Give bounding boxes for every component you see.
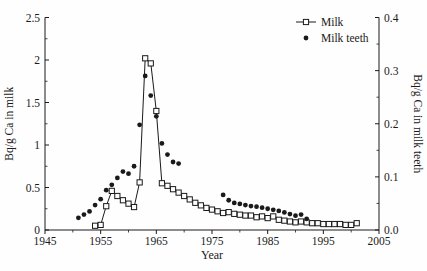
x-axis-label: Year (201, 248, 223, 262)
chart-svg: 1945195519651975198519952005Year00.511.5… (0, 0, 427, 271)
y-axis-right: 0.00.10.20.30.4Bq/g Ca in milk teeth (375, 12, 424, 237)
milk-point-marker (187, 197, 192, 202)
milk-point-marker (137, 180, 142, 185)
milk-point-marker (176, 190, 181, 195)
legend-item-milk-teeth: Milk teeth (304, 32, 369, 44)
milk-point-marker (287, 219, 292, 224)
milk-point-marker (126, 201, 131, 206)
milk-teeth-point-marker (237, 202, 242, 207)
milk-teeth-point-marker (109, 182, 114, 187)
milk-point-marker (343, 222, 348, 227)
milk-point-marker (104, 204, 109, 209)
y-left-tick-label: 1.5 (26, 97, 41, 109)
milk-point-marker (276, 217, 281, 222)
milk-point-marker (243, 213, 248, 218)
legend-label: Milk teeth (321, 32, 369, 44)
x-tick-label: 1945 (34, 235, 57, 247)
milk-teeth-point-marker (76, 215, 81, 220)
x-tick-label: 1965 (145, 235, 168, 247)
milk-point-marker (131, 204, 136, 209)
series-milk (93, 56, 360, 229)
milk-teeth-point-marker (254, 204, 259, 209)
y-right-tick-label: 0.0 (384, 224, 399, 236)
milk-point-marker (354, 221, 359, 226)
milk-point-marker (326, 221, 331, 226)
milk-point-marker (209, 207, 214, 212)
milk-teeth-point-marker (148, 93, 153, 98)
milk-point-marker (315, 221, 320, 226)
x-axis: 1945195519651975198519952005Year (34, 230, 391, 262)
y-axis-label-right: Bq/g Ca in milk teeth (411, 74, 424, 173)
x-tick-label: 1975 (201, 235, 224, 247)
milk-point-marker (298, 219, 303, 224)
milk-point-marker (170, 187, 175, 192)
milk-teeth-point-marker (226, 198, 231, 203)
milk-point-marker (337, 221, 342, 226)
x-tick-label: 1995 (312, 235, 335, 247)
y-left-tick-label: 1 (34, 139, 40, 151)
milk-point-marker (120, 198, 125, 203)
milk-teeth-point-marker (115, 176, 120, 181)
milk-teeth-point-marker (282, 210, 287, 215)
milk-teeth-point-marker (104, 188, 109, 193)
milk-point-marker (271, 214, 276, 219)
milk-point-marker (93, 223, 98, 228)
milk-teeth-point-marker (304, 216, 309, 221)
milk-teeth-point-marker (243, 203, 248, 208)
milk-teeth-point-marker (137, 122, 142, 127)
legend-open-square-icon (303, 19, 308, 24)
legend: MilkMilk teeth (296, 16, 369, 44)
x-tick-label: 1955 (89, 235, 112, 247)
y-axis-left: 00.511.522.5Bq/g Ca in milk (3, 12, 49, 237)
milk-teeth-point-marker (171, 160, 176, 165)
milk-teeth-point-marker (293, 213, 298, 218)
milk-point-marker (198, 203, 203, 208)
milk-teeth-point-marker (249, 204, 254, 209)
y-axis-label-left: Bq/g Ca in milk (3, 87, 16, 161)
milk-point-marker (98, 222, 103, 227)
milk-teeth-point-marker (288, 212, 293, 217)
milk-point-marker (254, 215, 259, 220)
milk-teeth-point-marker (160, 141, 165, 146)
milk-point-marker (148, 61, 153, 66)
milk-point-marker (154, 108, 159, 113)
milk-teeth-point-marker (121, 169, 126, 174)
milk-teeth-point-marker (221, 193, 226, 198)
x-tick-label: 2005 (368, 235, 391, 247)
milk-teeth-point-marker (143, 74, 148, 79)
y-left-tick-label: 0.5 (26, 182, 41, 194)
milk-point-marker (237, 212, 242, 217)
milk-point-marker (109, 188, 114, 193)
milk-point-marker (232, 211, 237, 216)
milk-point-marker (321, 221, 326, 226)
milk-teeth-point-marker (165, 152, 170, 157)
y-left-tick-label: 2.5 (26, 12, 41, 24)
axes (45, 18, 379, 231)
milk-point-marker (182, 193, 187, 198)
milk-point-marker (159, 181, 164, 186)
milk-point-marker (282, 218, 287, 223)
milk-teeth-point-marker (98, 197, 103, 202)
milk-point-marker (165, 183, 170, 188)
milk-teeth-point-marker (232, 201, 237, 206)
milk-teeth-point-marker (276, 208, 281, 213)
legend-filled-circle-icon (304, 36, 309, 41)
milk-teeth-point-marker (93, 203, 98, 208)
milk-teeth-point-marker (271, 207, 276, 212)
milk-teeth-point-marker (265, 206, 270, 211)
milk-point-marker (332, 221, 337, 226)
y-right-tick-label: 0.1 (384, 171, 399, 183)
milk-teeth-point-marker (87, 209, 92, 214)
milk-point-marker (310, 221, 315, 226)
y-right-tick-label: 0.2 (384, 118, 399, 130)
milk-point-marker (265, 216, 270, 221)
y-right-tick-label: 0.4 (384, 12, 399, 24)
milk-point-marker (260, 214, 265, 219)
figure: 1945195519651975198519952005Year00.511.5… (0, 0, 427, 271)
milk-teeth-point-marker (176, 161, 181, 166)
milk-point-marker (349, 222, 354, 227)
milk-point-marker (226, 210, 231, 215)
legend-item-milk: Milk (296, 16, 344, 28)
milk-point-marker (143, 56, 148, 61)
milk-point-marker (221, 210, 226, 215)
